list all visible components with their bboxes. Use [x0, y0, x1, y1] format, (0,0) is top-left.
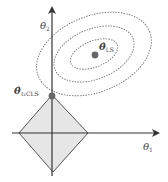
ls-estimate-point [92, 52, 99, 59]
cls-estimate-label: θ̂ℓ₁CLS [14, 85, 39, 97]
cls-estimate-point [49, 93, 56, 100]
l1-constrained-ls-diagram: θ2 θ1 θ̂LS θ̂ℓ₁CLS [0, 0, 168, 182]
x-axis-label: θ1 [143, 141, 153, 153]
ls-estimate-label: θ̂LS [99, 41, 114, 53]
y-axis-label: θ2 [40, 20, 50, 32]
